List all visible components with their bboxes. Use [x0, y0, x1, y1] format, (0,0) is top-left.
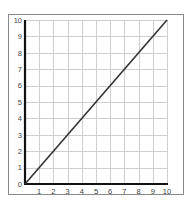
- x-tick-label: 1: [37, 187, 41, 196]
- y-tick-label: 9: [18, 32, 22, 41]
- y-tick-label: 3: [18, 131, 22, 140]
- x-tick-label: 3: [66, 187, 70, 196]
- x-tick-label: 2: [51, 187, 55, 196]
- y-tick-label: 2: [18, 147, 22, 156]
- y-tick-label: 8: [18, 49, 22, 58]
- y-tick-label: 4: [18, 114, 22, 123]
- y-tick-label: 5: [18, 98, 22, 107]
- y-tick-label: 7: [18, 65, 22, 74]
- x-tick-label: 8: [137, 187, 141, 196]
- x-tick-label: 5: [94, 187, 98, 196]
- x-tick-label: 7: [122, 187, 126, 196]
- line-chart: 012345678910 12345678910: [0, 0, 189, 205]
- y-tick-label: 1: [18, 163, 22, 172]
- y-tick-label: 6: [18, 81, 22, 90]
- y-tick-label: 10: [14, 16, 22, 25]
- x-tick-label: 10: [163, 187, 171, 196]
- x-tick-label: 6: [108, 187, 112, 196]
- y-tick-label: 0: [18, 180, 22, 189]
- x-tick-label: 9: [151, 187, 155, 196]
- x-tick-label: 4: [80, 187, 84, 196]
